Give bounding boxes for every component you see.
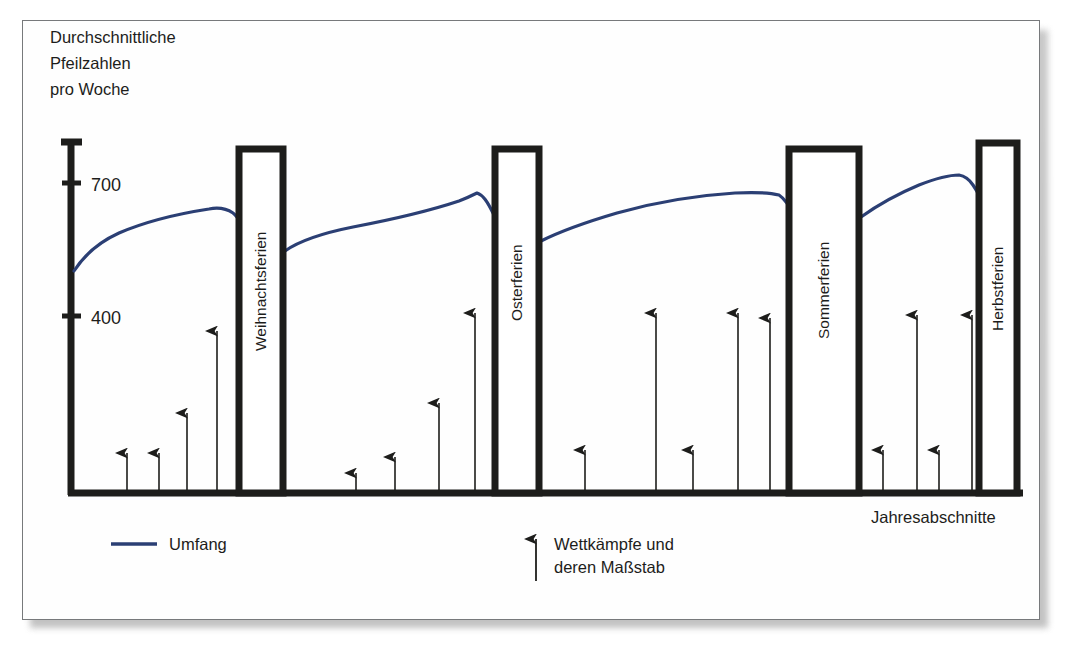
umfang-segment-3: [541, 193, 799, 241]
chart-plot-area: Durchschnittliche Pfeilzahlen pro Woche …: [23, 21, 1040, 620]
x-axis-title: Jahresabschnitte: [871, 508, 996, 526]
y-tick-label-700: 700: [91, 175, 121, 195]
legend: Umfang Wettkämpfe und deren Maßstab: [111, 535, 674, 581]
umfang-segment-4: [861, 175, 979, 217]
holiday-box-osterferien: Osterferien: [495, 149, 539, 493]
figure-frame: Durchschnittliche Pfeilzahlen pro Woche …: [22, 20, 1040, 620]
legend-wettkaempfe-label-line-1: Wettkämpfe und: [554, 535, 674, 553]
competition-arrow-group-4: [883, 315, 972, 491]
holiday-label-osterferien: Osterferien: [508, 244, 525, 321]
holiday-label-sommerferien: Sommerferien: [815, 242, 832, 339]
holiday-box-weihnachtsferien: Weihnachtsferien: [239, 149, 283, 493]
holiday-box-herbstferien: Herbstferien: [979, 143, 1017, 493]
holiday-box-sommerferien: Sommerferien: [789, 149, 859, 493]
y-axis-title-line-1: Durchschnittliche: [50, 28, 176, 46]
y-axis-title-line-3: pro Woche: [50, 80, 130, 98]
y-axis-title-line-2: Pfeilzahlen: [50, 54, 131, 72]
legend-umfang-label: Umfang: [169, 535, 227, 553]
umfang-segment-1: [74, 208, 243, 271]
holiday-label-herbstferien: Herbstferien: [989, 247, 1006, 331]
competition-arrow-group-3: [585, 313, 770, 491]
legend-wettkaempfe-label-line-2: deren Maßstab: [554, 558, 665, 576]
competition-arrow-group-1: [127, 331, 217, 491]
umfang-segment-2: [285, 193, 499, 251]
y-tick-label-400: 400: [91, 308, 121, 328]
holiday-label-weihnachtsferien: Weihnachtsferien: [252, 232, 269, 351]
competition-arrow-group-2: [356, 313, 475, 491]
